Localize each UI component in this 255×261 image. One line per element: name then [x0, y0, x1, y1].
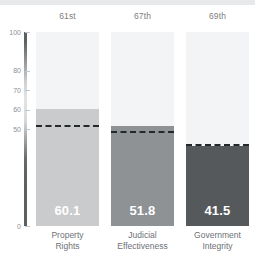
y-tick-0: 0 — [0, 226, 30, 227]
y-tick-80: 80 — [0, 71, 30, 72]
bar-value-property-rights: 60.1 — [36, 203, 99, 218]
rank-annotation-row: 61st 67th 69th — [30, 9, 255, 23]
category-label-property-rights-line2: Rights — [30, 241, 105, 252]
y-tick-60: 60 — [0, 110, 30, 111]
y-tick-50: 50 — [0, 129, 30, 130]
y-tick-70: 70 — [0, 90, 30, 91]
category-label-row: Property Rights Judicial Effectiveness G… — [30, 230, 255, 260]
rank-label-judicial-effectiveness: 67th — [105, 9, 180, 23]
bar-value-government-integrity: 41.5 — [186, 203, 249, 218]
benchmark-line-judicial-effectiveness — [111, 131, 174, 133]
bar-value-judicial-effectiveness: 51.8 — [111, 203, 174, 218]
bar-chart-figure: 61st 67th 69th 100 80 70 60 50 0 — [0, 0, 255, 261]
y-tick-mark-100 — [25, 32, 30, 33]
rank-label-property-rights: 61st — [30, 9, 105, 23]
y-tick-label-100: 100 — [9, 27, 21, 38]
y-tick-label-60: 60 — [13, 104, 21, 115]
category-label-government-integrity: Government Integrity — [180, 230, 255, 252]
y-tick-mark-0 — [25, 226, 30, 227]
benchmark-line-property-rights — [36, 125, 99, 127]
category-label-government-integrity-line1: Government — [180, 230, 255, 241]
category-label-property-rights: Property Rights — [30, 230, 105, 252]
top-divider-band — [0, 0, 255, 5]
y-tick-label-70: 70 — [13, 85, 21, 96]
y-tick-label-80: 80 — [13, 65, 21, 76]
y-tick-mark-80 — [25, 71, 30, 72]
category-label-judicial-effectiveness: Judicial Effectiveness — [105, 230, 180, 252]
y-tick-mark-60 — [25, 110, 30, 111]
category-label-judicial-effectiveness-line2: Effectiveness — [105, 241, 180, 252]
benchmark-line-government-integrity — [186, 144, 249, 146]
y-tick-100: 100 — [0, 32, 30, 33]
rank-label-government-integrity: 69th — [180, 9, 255, 23]
y-tick-label-50: 50 — [13, 124, 21, 135]
y-tick-label-0: 0 — [17, 221, 21, 232]
category-label-judicial-effectiveness-line1: Judicial — [105, 230, 180, 241]
category-label-property-rights-line1: Property — [30, 230, 105, 241]
plot-area: 100 80 70 60 50 0 60.1 — [30, 32, 255, 226]
y-tick-mark-70 — [25, 90, 30, 91]
y-tick-mark-50 — [25, 129, 30, 130]
category-label-government-integrity-line2: Integrity — [180, 241, 255, 252]
